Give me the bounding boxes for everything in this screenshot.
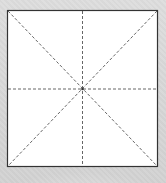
center-point	[81, 88, 84, 91]
folding-square-diagram	[0, 0, 166, 183]
